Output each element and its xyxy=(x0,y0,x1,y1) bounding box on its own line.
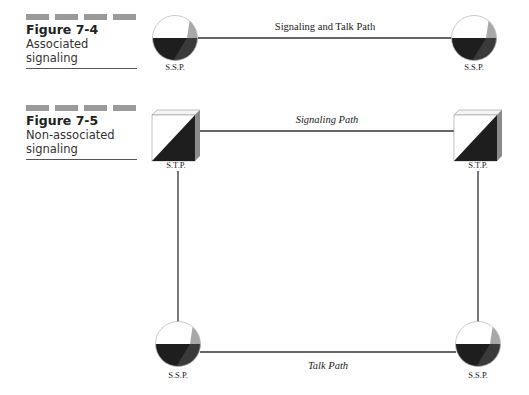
talk-path-label: Talk Path xyxy=(308,360,348,371)
signaling-and-talk-path-label: Signaling and Talk Path xyxy=(275,21,376,32)
ssp-label: S.S.P. xyxy=(165,62,185,72)
ssp-node-icon xyxy=(451,15,497,61)
ssp-label: S.S.P. xyxy=(468,370,488,380)
stp-label: S.T.P. xyxy=(468,160,487,170)
ssp-label: S.S.P. xyxy=(168,370,188,380)
ssp-node-icon xyxy=(152,15,198,61)
stp-node-icon xyxy=(152,110,200,161)
ssp-node-icon xyxy=(155,321,201,367)
ssp-label: S.S.P. xyxy=(464,62,484,72)
ssp-node-icon xyxy=(455,321,501,367)
stp-node-icon xyxy=(454,110,502,161)
signaling-path-label: Signaling Path xyxy=(296,114,359,125)
diagram-canvas: Signaling and Talk Path S.S.P. S.S.P. S.… xyxy=(0,0,529,395)
stp-label: S.T.P. xyxy=(166,160,185,170)
